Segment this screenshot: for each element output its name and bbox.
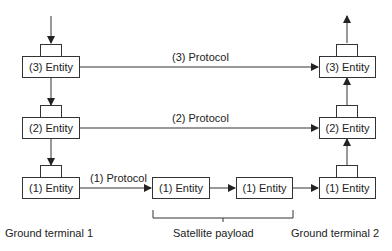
- protocol-2-label: (2) Protocol: [172, 112, 229, 124]
- gt1-entity-3: (3) Entity: [22, 56, 80, 78]
- gt2-entity-1: (1) Entity: [319, 177, 376, 199]
- protocol-stack-diagram: (3) Entity (2) Entity (1) Entity (1) Ent…: [0, 0, 392, 251]
- satellite-payload-label: Satellite payload: [173, 227, 254, 239]
- gt1-entity-2: (2) Entity: [22, 117, 80, 139]
- sat-entity-1a: (1) Entity: [152, 177, 210, 199]
- gt2-entity-3: (3) Entity: [319, 56, 376, 78]
- protocol-3-label: (3) Protocol: [172, 51, 229, 63]
- satellite-brace: [153, 210, 293, 218]
- gt1-entity-1: (1) Entity: [22, 177, 80, 199]
- sat-entity-1b: (1) Entity: [236, 177, 293, 199]
- protocol-1-label: (1) Protocol: [90, 172, 147, 184]
- ground-terminal-2-label: Ground terminal 2: [291, 227, 379, 239]
- ground-terminal-1-label: Ground terminal 1: [5, 227, 93, 239]
- gt2-entity-2: (2) Entity: [319, 117, 376, 139]
